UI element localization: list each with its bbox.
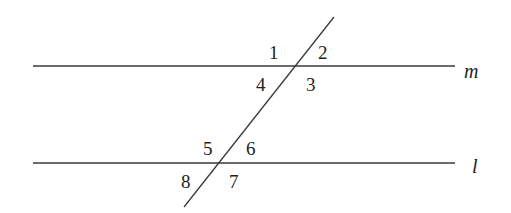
angle-5-label: 5 <box>203 138 213 159</box>
angle-4-label: 4 <box>256 74 266 95</box>
angle-3-label: 3 <box>306 74 316 95</box>
diagram-canvas: m l 1 2 3 4 5 6 7 8 <box>0 0 511 213</box>
angle-7-label: 7 <box>229 171 239 192</box>
angle-1-label: 1 <box>269 42 279 63</box>
angle-2-label: 2 <box>318 42 328 63</box>
angle-8-label: 8 <box>181 171 191 192</box>
transversal <box>184 17 334 207</box>
line-m-label: m <box>464 60 478 82</box>
line-l-label: l <box>472 155 478 177</box>
angle-6-label: 6 <box>246 138 256 159</box>
